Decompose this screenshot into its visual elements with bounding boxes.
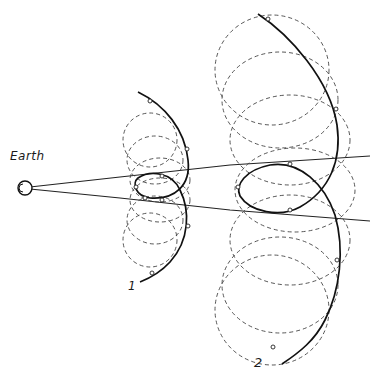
earth-icon xyxy=(18,181,32,195)
orbit-2-label: 2 xyxy=(254,355,262,370)
planet-path-1 xyxy=(134,92,190,282)
sight-lines xyxy=(30,156,370,221)
upper-sight-line xyxy=(30,156,370,187)
planet-path-2 xyxy=(236,14,340,364)
diagram-canvas: Earth 1 2 xyxy=(0,0,370,379)
orbit-1-label: 1 xyxy=(128,279,136,293)
diagram-svg xyxy=(0,0,370,379)
earth-label: Earth xyxy=(10,149,45,163)
lower-sight-line xyxy=(30,189,370,221)
epicycles-2 xyxy=(215,15,355,365)
